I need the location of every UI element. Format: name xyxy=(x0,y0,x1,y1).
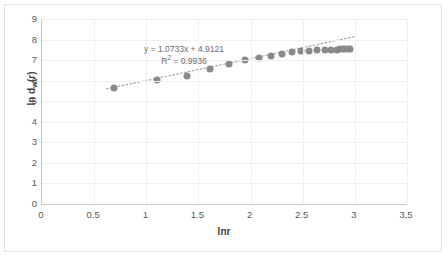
y-axis-title-base: ln d xyxy=(26,88,37,106)
x-axis-tick-label: 1 xyxy=(143,210,148,220)
gridline-horizontal xyxy=(42,142,407,143)
x-axis-tick-label: 2 xyxy=(247,210,252,220)
y-axis-tick-label: 1 xyxy=(11,179,37,189)
data-point xyxy=(183,73,190,80)
data-point xyxy=(278,50,285,57)
gridline-horizontal xyxy=(42,183,407,184)
regression-equation: y = 1.0733x + 4.9121 xyxy=(123,43,245,55)
gridline-horizontal xyxy=(42,163,407,164)
x-axis-tick-label: 2.5 xyxy=(295,210,308,220)
x-axis-tick-label: 0 xyxy=(38,210,43,220)
data-point xyxy=(305,47,312,54)
gridline-horizontal xyxy=(42,40,407,41)
y-axis-tick-label: 9 xyxy=(11,14,37,24)
gridline-vertical xyxy=(251,19,252,204)
gridline-vertical xyxy=(355,19,356,204)
y-axis-tick-label: 3 xyxy=(11,138,37,148)
gridline-vertical xyxy=(407,19,408,204)
x-axis-tick-label: 0.5 xyxy=(87,210,100,220)
chart-container: 0123456789 ln dw(r) y = 1.0733x + 4.9121… xyxy=(4,4,442,252)
y-axis-title-subscript: w xyxy=(30,82,39,88)
y-axis-tick-label: 8 xyxy=(11,35,37,45)
gridline-horizontal xyxy=(42,101,407,102)
gridline-vertical xyxy=(303,19,304,204)
r-squared-value: = 0.9936 xyxy=(171,56,207,66)
x-axis-tick-label: 3.5 xyxy=(399,210,412,220)
gridline-vertical xyxy=(94,19,95,204)
y-axis-tick-label: 2 xyxy=(11,158,37,168)
y-axis-title-tail: (r) xyxy=(26,71,37,82)
gridline-horizontal xyxy=(42,19,407,20)
data-point xyxy=(346,45,353,52)
regression-r-squared: R2 = 0.9936 xyxy=(123,55,245,67)
x-axis-tick-labels: 00.511.522.533.5 xyxy=(41,210,407,224)
data-point xyxy=(268,52,275,59)
regression-annotation: y = 1.0733x + 4.9121 R2 = 0.9936 xyxy=(123,43,245,68)
x-axis-tick-label: 1.5 xyxy=(191,210,204,220)
x-axis-tick-label: 3 xyxy=(351,210,356,220)
data-point xyxy=(110,84,117,91)
y-axis-tick-label: 0 xyxy=(11,199,37,209)
gridline-horizontal xyxy=(42,122,407,123)
x-axis-title: lnr xyxy=(41,226,407,237)
data-point xyxy=(289,49,296,56)
data-point xyxy=(314,47,321,54)
y-axis-title: ln dw(r) xyxy=(26,59,37,119)
gridline-horizontal xyxy=(42,81,407,82)
